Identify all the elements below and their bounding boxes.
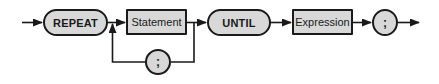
repeat-syntax-diagram: REPEAT Statement ; UNTIL Expression ; [0, 0, 439, 84]
loop-separator-label: ; [156, 55, 160, 69]
expression-label: Expression [295, 16, 349, 28]
expression-node: Expression [292, 9, 353, 35]
statement-node: Statement [126, 9, 187, 35]
repeat-label: REPEAT [53, 17, 98, 29]
statement-label: Statement [131, 16, 181, 28]
until-label: UNTIL [222, 17, 255, 29]
until-keyword-node: UNTIL [207, 9, 271, 36]
terminator-label: ; [383, 16, 387, 30]
repeat-keyword-node: REPEAT [43, 9, 108, 36]
loop-separator-node: ; [145, 49, 171, 75]
terminator-node: ; [372, 9, 398, 36]
